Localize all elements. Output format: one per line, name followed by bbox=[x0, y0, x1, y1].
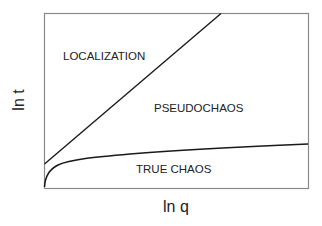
region-label-true-chaos: TRUE CHAOS bbox=[136, 164, 211, 176]
region-label-pseudochaos: PSEUDOCHAOS bbox=[154, 103, 243, 115]
localization-boundary-line bbox=[45, 14, 222, 165]
y-axis-label: ln t bbox=[11, 84, 27, 116]
x-axis-label: ln q bbox=[163, 199, 189, 215]
region-label-localization: LOCALIZATION bbox=[63, 51, 145, 63]
